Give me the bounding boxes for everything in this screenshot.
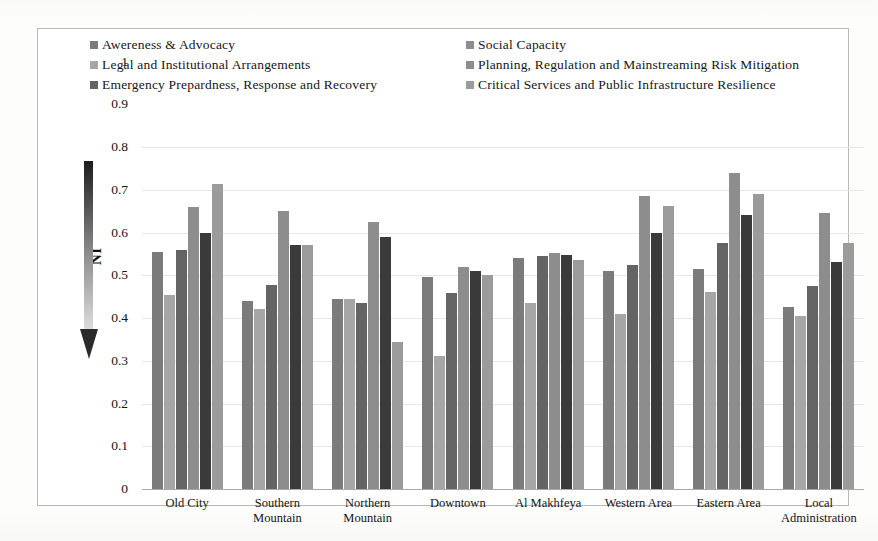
bar[interactable] (807, 286, 818, 489)
bar[interactable] (332, 299, 343, 489)
bar[interactable] (753, 194, 764, 489)
legend-swatch-icon (466, 61, 474, 69)
bar-group-bars (693, 147, 764, 489)
bar[interactable] (470, 271, 481, 489)
legend-item[interactable]: Emergency Prepardness, Response and Reco… (90, 75, 377, 95)
bar[interactable] (392, 342, 403, 489)
x-axis-label-line: Local (774, 496, 864, 511)
x-axis-label: LocalAdministration (774, 493, 864, 537)
bar[interactable] (458, 267, 469, 489)
x-axis-label-line: Administration (774, 511, 864, 526)
bar-group-bars (152, 147, 223, 489)
bar[interactable] (152, 252, 163, 489)
bar[interactable] (446, 293, 457, 489)
bar-group (142, 147, 232, 489)
bar-group (774, 147, 864, 489)
legend-swatch-icon (466, 41, 474, 49)
x-axis-label: Downtown (413, 493, 503, 537)
bar[interactable] (344, 299, 355, 489)
legend-item-label: Emergency Prepardness, Response and Reco… (102, 75, 377, 94)
bar[interactable] (176, 250, 187, 489)
bar[interactable] (422, 277, 433, 489)
x-axis-label-line: Northern (323, 496, 413, 511)
bar[interactable] (200, 233, 211, 490)
bar[interactable] (729, 173, 740, 489)
bar[interactable] (603, 271, 614, 489)
x-axis-label-line: Old City (142, 496, 232, 511)
x-axis-label: NorthernMountain (323, 493, 413, 537)
bar[interactable] (561, 255, 572, 489)
bar[interactable] (783, 307, 794, 489)
x-axis-label: Eastern Area (684, 493, 774, 537)
bar[interactable] (242, 301, 253, 489)
x-axis-label: Old City (142, 493, 232, 537)
bar[interactable] (302, 245, 313, 489)
chart-page: Awereness & AdvocacyLegal and Institutio… (0, 0, 878, 541)
x-axis-label: Western Area (593, 493, 683, 537)
bar[interactable] (843, 243, 854, 489)
legend-swatch-icon (466, 81, 474, 89)
x-axis-label-line: Western Area (593, 496, 683, 511)
bar[interactable] (482, 275, 493, 489)
chart-legend: Awereness & AdvocacyLegal and Institutio… (38, 35, 848, 97)
x-axis-label-line: Mountain (232, 511, 322, 526)
bar[interactable] (368, 222, 379, 489)
bar[interactable] (380, 237, 391, 489)
legend-item[interactable]: Social Capacity (466, 35, 799, 55)
bar[interactable] (513, 258, 524, 489)
bar-group-bars (422, 147, 493, 489)
legend-item[interactable]: Awereness & Advocacy (90, 35, 377, 55)
bar[interactable] (627, 265, 638, 489)
y-tick-label: 0.3 (88, 353, 128, 369)
bar[interactable] (819, 213, 830, 489)
x-axis-label-line: Al Makhfeya (503, 496, 593, 511)
x-axis-label-line: Downtown (413, 496, 503, 511)
legend-item-label: Critical Services and Public Infrastruct… (478, 75, 776, 94)
y-tick-label: 0 (88, 481, 128, 497)
bar[interactable] (741, 215, 752, 489)
legend-item-label: Legal and Institutional Arrangements (102, 55, 311, 74)
bar[interactable] (254, 309, 265, 489)
legend-item[interactable]: Legal and Institutional Arrangements (90, 55, 377, 75)
bar[interactable] (164, 295, 175, 490)
bar[interactable] (693, 269, 704, 489)
y-axis-ticks: 10.90.80.70.60.50.40.30.20.10 (90, 147, 136, 489)
bar[interactable] (290, 245, 301, 489)
legend-column-right: Social CapacityPlanning, Regulation and … (466, 35, 799, 95)
x-axis-label: Al Makhfeya (503, 493, 593, 537)
bar-group-bars (242, 147, 313, 489)
bar-group (323, 147, 413, 489)
bar[interactable] (434, 356, 445, 489)
axis-baseline (142, 489, 864, 490)
bar[interactable] (525, 303, 536, 489)
legend-item[interactable]: Planning, Regulation and Mainstreaming R… (466, 55, 799, 75)
bar[interactable] (537, 256, 548, 489)
chart-frame: Awereness & AdvocacyLegal and Institutio… (37, 28, 849, 506)
bar[interactable] (573, 260, 584, 489)
bar[interactable] (278, 211, 289, 489)
legend-item-label: Social Capacity (478, 35, 566, 54)
legend-item[interactable]: Critical Services and Public Infrastruct… (466, 75, 799, 95)
bar[interactable] (795, 316, 806, 489)
bar[interactable] (663, 206, 674, 489)
bar-group (593, 147, 683, 489)
bar[interactable] (212, 184, 223, 489)
bar-group-bars (513, 147, 584, 489)
legend-item-label: Awereness & Advocacy (102, 35, 235, 54)
bar[interactable] (188, 207, 199, 489)
bar[interactable] (717, 243, 728, 489)
bar[interactable] (651, 233, 662, 490)
bar[interactable] (705, 292, 716, 489)
y-tick-label: 0.8 (88, 139, 128, 155)
bar-group (684, 147, 774, 489)
bar[interactable] (831, 262, 842, 489)
x-axis-labels: Old CitySouthernMountainNorthernMountain… (142, 493, 864, 537)
bar-group-bars (332, 147, 403, 489)
bar[interactable] (639, 196, 650, 489)
y-tick-label: 0.7 (88, 182, 128, 198)
x-axis-label-line: Eastern Area (684, 496, 774, 511)
bar[interactable] (266, 285, 277, 489)
bar[interactable] (615, 314, 626, 489)
bar[interactable] (549, 253, 560, 489)
bar[interactable] (356, 303, 367, 489)
